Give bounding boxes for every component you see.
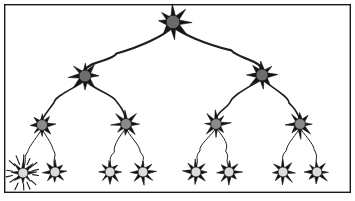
node-core <box>295 119 306 130</box>
node-core <box>191 167 201 177</box>
node-core <box>256 69 268 81</box>
node-core <box>278 167 288 177</box>
node-core <box>105 167 115 177</box>
node-core <box>121 119 132 130</box>
node-core <box>211 119 222 130</box>
node-core <box>79 70 91 82</box>
node-core <box>138 167 148 177</box>
node-core <box>37 120 48 131</box>
star-tree-diagram <box>0 0 355 201</box>
diagram-canvas: Hierarchical star-node tree diagram Four… <box>0 0 355 201</box>
node-core <box>312 167 322 177</box>
node-core <box>18 168 28 178</box>
node-core <box>50 167 60 177</box>
node-core <box>224 167 234 177</box>
node-core <box>166 15 180 29</box>
